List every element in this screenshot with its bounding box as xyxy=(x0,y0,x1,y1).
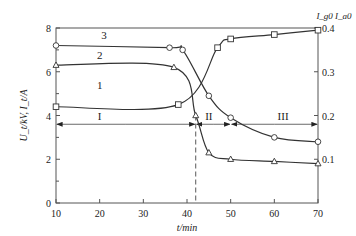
x-tick-label: 60 xyxy=(269,208,279,219)
x-tick-label: 10 xyxy=(51,208,61,219)
x-tick-label: 30 xyxy=(138,208,148,219)
axis-ticks: 10203040506070024680.10.20.30.4 xyxy=(46,23,335,219)
y-right-tick-label: 0.1 xyxy=(322,154,335,165)
series-1: 1 xyxy=(53,27,321,109)
series-label: 1 xyxy=(97,79,103,91)
y-axis-label: U_t/kV, I_t/A xyxy=(18,89,29,142)
y-right-axis-label: I_g0 I_a0 xyxy=(315,11,352,21)
y-right-tick-label: 0.2 xyxy=(322,111,335,122)
x-tick-label: 40 xyxy=(182,208,192,219)
line-chart: 10203040506070024680.10.20.30.4 IIIIII 1… xyxy=(0,0,356,236)
data-series: 123 xyxy=(53,27,321,165)
y-right-tick-label: 0.3 xyxy=(322,67,335,78)
x-tick-label: 20 xyxy=(95,208,105,219)
stage-label: I xyxy=(98,110,102,122)
y-tick-label: 0 xyxy=(46,198,51,209)
y-tick-label: 8 xyxy=(46,23,51,34)
axis-labels: t/minU_t/kV, I_t/AI_g0 I_a0 xyxy=(18,11,352,233)
series-label: 2 xyxy=(97,49,103,61)
y-tick-label: 6 xyxy=(46,67,51,78)
stage-annotations: IIIIII xyxy=(57,110,317,203)
series-label: 3 xyxy=(101,29,107,41)
y-tick-label: 2 xyxy=(46,154,51,165)
x-tick-label: 70 xyxy=(313,208,323,219)
stage-label: II xyxy=(205,110,213,122)
y-tick-label: 4 xyxy=(46,111,51,122)
stage-label: III xyxy=(278,110,289,122)
series-2: 2 xyxy=(53,49,321,166)
y-right-tick-label: 0.4 xyxy=(322,23,335,34)
series-3: 3 xyxy=(53,29,321,145)
x-tick-label: 50 xyxy=(226,208,236,219)
x-axis-label: t/min xyxy=(177,222,198,233)
